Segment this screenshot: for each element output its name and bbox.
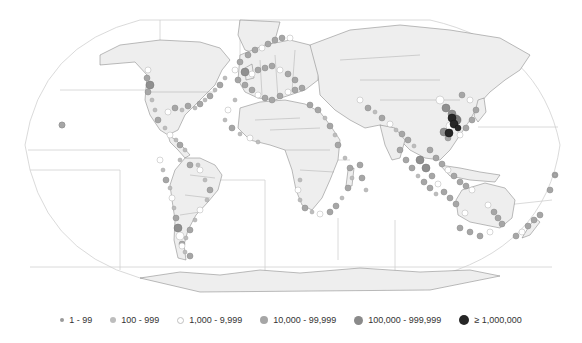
city-marker (197, 167, 203, 173)
city-marker (237, 59, 243, 65)
city-marker (203, 98, 207, 102)
city-marker (302, 205, 308, 211)
city-marker (165, 109, 171, 115)
north-america (100, 40, 230, 135)
legend-item-100-999: 100 - 999 (110, 315, 159, 325)
city-marker (485, 202, 491, 208)
city-marker (247, 135, 253, 141)
city-marker (183, 250, 187, 254)
city-marker (416, 156, 424, 164)
city-marker (457, 132, 463, 138)
city-marker (193, 218, 197, 222)
city-marker (547, 187, 553, 193)
city-marker (333, 203, 339, 209)
legend-marker-icon (459, 315, 469, 325)
city-marker (531, 217, 537, 223)
city-marker (155, 117, 161, 123)
city-marker (422, 164, 430, 172)
city-marker (477, 233, 483, 239)
city-marker-large (445, 129, 453, 137)
city-marker (256, 140, 260, 144)
city-marker (183, 148, 187, 152)
legend-marker-icon (354, 316, 363, 325)
city-marker (173, 215, 179, 221)
city-marker (184, 236, 188, 240)
city-marker (245, 52, 251, 58)
city-marker (187, 162, 193, 168)
city-marker (403, 157, 409, 163)
city-marker (495, 215, 501, 221)
city-marker (441, 189, 447, 195)
city-marker (163, 177, 169, 183)
city-marker (269, 63, 275, 69)
city-marker (285, 89, 291, 95)
city-marker (373, 110, 377, 114)
city-marker (197, 101, 203, 107)
city-marker (277, 67, 283, 73)
legend-marker-icon (177, 317, 184, 324)
city-marker (421, 179, 427, 185)
city-marker (172, 206, 176, 210)
city-marker (537, 212, 543, 218)
city-marker (174, 224, 182, 232)
city-marker (487, 229, 493, 235)
city-marker-large (455, 125, 461, 131)
city-marker (187, 227, 193, 233)
city-marker (427, 185, 433, 191)
city-marker (409, 165, 415, 171)
city-marker (399, 131, 405, 137)
city-marker (180, 108, 184, 112)
legend-label: 1,000 - 9,999 (189, 315, 242, 325)
city-marker (223, 118, 227, 122)
city-marker (262, 65, 268, 71)
city-marker (249, 87, 255, 93)
legend-item-1-99: 1 - 99 (60, 315, 92, 325)
city-marker (457, 225, 463, 231)
city-marker (255, 67, 261, 73)
land (100, 20, 540, 292)
legend-label: ≥ 1,000,000 (474, 315, 521, 325)
city-marker (416, 174, 420, 178)
legend: 1 - 99 100 - 999 1,000 - 9,999 10,000 - … (0, 312, 582, 328)
legend-marker-icon (60, 318, 64, 322)
city-marker (357, 97, 363, 103)
city-marker (145, 67, 151, 73)
legend-item-1000-9999: 1,000 - 9,999 (177, 315, 242, 325)
city-marker (467, 229, 473, 235)
city-marker (298, 198, 302, 202)
city-marker (193, 106, 197, 110)
city-marker (513, 233, 519, 239)
city-marker (397, 147, 403, 153)
city-marker (292, 87, 298, 93)
city-marker (167, 132, 173, 138)
city-marker (405, 137, 411, 143)
city-marker (436, 96, 444, 104)
city-marker (429, 173, 435, 179)
city-marker (177, 142, 183, 148)
city-marker (457, 179, 463, 185)
city-marker (347, 165, 353, 171)
legend-item-10000-99999: 10,000 - 99,999 (260, 315, 336, 325)
city-marker (451, 173, 457, 179)
city-marker (233, 98, 237, 102)
city-marker (287, 35, 293, 41)
city-marker (359, 175, 365, 181)
city-marker (150, 98, 154, 102)
city-marker (163, 126, 167, 130)
city-marker (499, 221, 505, 227)
city-marker (213, 88, 217, 92)
city-marker (168, 186, 172, 190)
asia (310, 25, 530, 160)
city-marker (169, 195, 175, 201)
city-marker (229, 125, 235, 131)
city-marker (317, 211, 323, 217)
city-marker (179, 243, 185, 249)
city-marker (447, 195, 453, 201)
city-marker (161, 168, 165, 172)
city-marker (427, 147, 433, 153)
city-marker (298, 178, 302, 182)
city-marker (412, 144, 416, 148)
city-marker (178, 158, 182, 162)
city-marker (225, 107, 231, 113)
city-marker (172, 105, 178, 111)
